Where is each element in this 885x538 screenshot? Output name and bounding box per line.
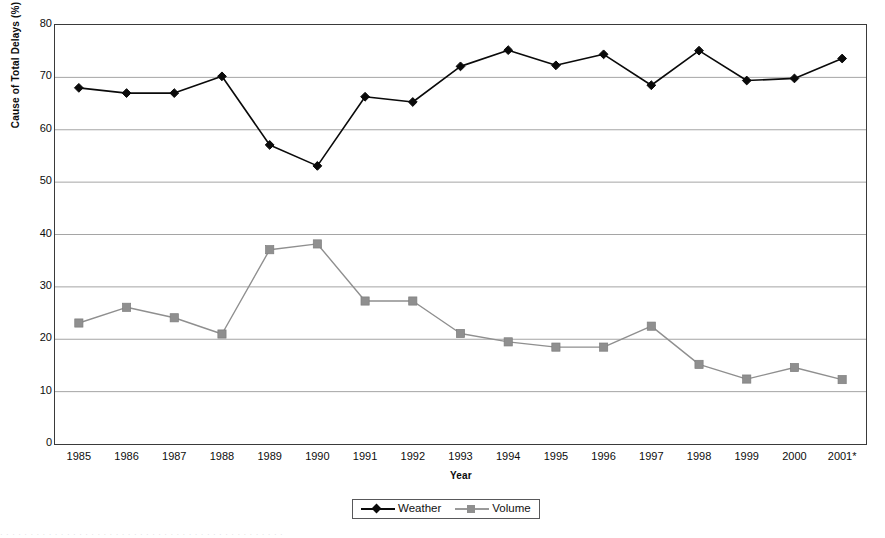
datapoint-weather-1985	[74, 83, 83, 92]
x-tick-1996: 1996	[591, 450, 615, 462]
y-axis-title: Cause of Total Delays (%)	[10, 0, 21, 155]
y-tick-0: 0	[26, 437, 52, 448]
y-tick-10: 10	[26, 385, 52, 396]
datapoint-volume-1989	[266, 246, 274, 254]
x-tick-1994: 1994	[496, 450, 520, 462]
chart-svg	[55, 25, 866, 444]
x-tick-1999: 1999	[734, 450, 758, 462]
datapoint-volume-1995	[552, 343, 560, 351]
y-tick-50: 50	[26, 175, 52, 186]
y-tick-20: 20	[26, 332, 52, 343]
plot-area	[54, 24, 867, 445]
datapoint-volume-1996	[600, 343, 608, 351]
volume-marker-icon	[455, 503, 489, 514]
x-axis-title: Year	[54, 470, 868, 481]
datapoint-weather-2000	[790, 74, 799, 83]
datapoint-volume-1993	[456, 329, 464, 337]
datapoint-weather-1987	[170, 89, 179, 98]
x-tick-1991: 1991	[353, 450, 377, 462]
datapoint-volume-1991	[361, 297, 369, 305]
weather-marker-icon	[361, 503, 395, 514]
footer-artifact-text: · · · · · · · · · · · · · · · · · · · · …	[0, 530, 885, 538]
x-tick-1987: 1987	[162, 450, 186, 462]
x-tick-1998: 1998	[687, 450, 711, 462]
datapoint-volume-2000	[790, 363, 798, 371]
y-tick-30: 30	[26, 280, 52, 291]
datapoint-weather-1995	[552, 61, 561, 70]
x-tick-1995: 1995	[544, 450, 568, 462]
x-tick-2001-star: 2001*	[828, 450, 857, 462]
datapoint-volume-1998	[695, 360, 703, 368]
x-tick-1986: 1986	[114, 450, 138, 462]
datapoint-volume-2001-star	[838, 375, 846, 383]
series-line-volume	[79, 244, 842, 380]
legend-item-volume: Volume	[455, 502, 530, 515]
legend-label-weather: Weather	[398, 502, 441, 515]
x-tick-1992: 1992	[401, 450, 425, 462]
x-tick-1997: 1997	[639, 450, 663, 462]
datapoint-weather-2001-star	[838, 54, 847, 63]
datapoint-volume-1990	[313, 240, 321, 248]
chart-legend: Weather Volume	[352, 499, 540, 519]
x-tick-1988: 1988	[210, 450, 234, 462]
y-tick-80: 80	[26, 18, 52, 29]
legend-label-volume: Volume	[492, 502, 530, 515]
series-weather	[74, 46, 846, 171]
x-tick-2000: 2000	[782, 450, 806, 462]
y-tick-40: 40	[26, 228, 52, 239]
y-tick-60: 60	[26, 123, 52, 134]
datapoint-volume-1986	[122, 303, 130, 311]
datapoint-weather-1986	[122, 89, 131, 98]
series-volume	[75, 240, 847, 384]
gridlines	[55, 77, 866, 391]
datapoint-volume-1994	[504, 338, 512, 346]
x-tick-1985: 1985	[67, 450, 91, 462]
x-tick-1990: 1990	[305, 450, 329, 462]
y-axis-tick-labels: 80706050403020100	[22, 0, 52, 538]
datapoint-volume-1988	[218, 330, 226, 338]
datapoint-volume-1992	[409, 297, 417, 305]
x-tick-1993: 1993	[448, 450, 472, 462]
datapoint-volume-1997	[647, 322, 655, 330]
chart-container: Cause of Total Delays (%) 80706050403020…	[0, 0, 885, 538]
x-tick-1989: 1989	[257, 450, 281, 462]
y-tick-70: 70	[26, 70, 52, 81]
datapoint-volume-1985	[75, 319, 83, 327]
legend-item-weather: Weather	[361, 502, 441, 515]
datapoint-weather-1996	[599, 50, 608, 59]
datapoint-volume-1999	[743, 375, 751, 383]
datapoint-weather-1994	[504, 46, 513, 55]
datapoint-volume-1987	[170, 314, 178, 322]
